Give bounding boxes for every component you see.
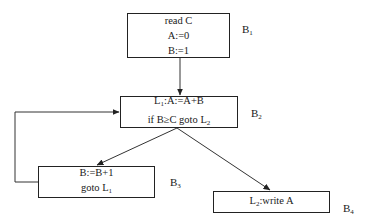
label-b1: B1 [242, 23, 253, 37]
b3-line-2: goto L1 [81, 180, 112, 199]
edge-b2-b3 [97, 128, 177, 165]
b1-line-1: read C [165, 13, 193, 28]
block-b4: L2:write A [213, 191, 330, 213]
label-b3: B3 [170, 176, 181, 190]
block-b2: L1:A:=A+B if B≥C goto L2 [120, 96, 238, 128]
label-b2: B2 [251, 107, 262, 121]
b3-line-1: B:=B+1 [79, 165, 113, 180]
b1-line-3: B:=1 [168, 43, 189, 58]
b2-line-1: L1:A:=A+B [154, 93, 204, 112]
edge-b2-b4 [177, 128, 270, 190]
b4-line-1: L2:write A [249, 193, 293, 212]
label-b4: B4 [343, 202, 354, 216]
b1-line-2: A:=0 [168, 28, 190, 43]
b2-line-2: if B≥C goto L2 [148, 112, 211, 131]
block-b1: read C A:=0 B:=1 [127, 13, 230, 58]
block-b3: B:=B+1 goto L1 [38, 166, 155, 198]
